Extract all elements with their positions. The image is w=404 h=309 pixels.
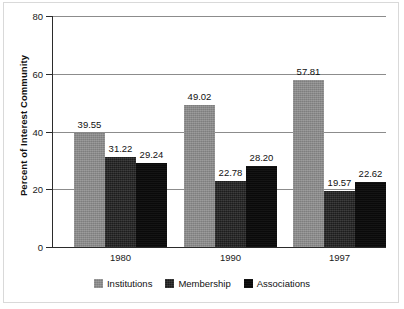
bar-group: 57.8119.5722.62 — [293, 16, 386, 247]
bar-group: 39.5531.2229.24 — [74, 16, 167, 247]
bar-chart-figure: Percent of Interest Community 020406080 … — [0, 0, 404, 309]
legend-swatch-icon — [165, 279, 174, 288]
y-tick-label: 20 — [32, 184, 43, 195]
legend-label: Associations — [257, 278, 310, 289]
bar-group: 49.0222.7828.20 — [184, 16, 277, 247]
legend-item-institutions[interactable]: Institutions — [94, 278, 152, 289]
legend-swatch-icon — [244, 279, 253, 288]
bar-institutions-1990[interactable]: 49.02 — [184, 105, 215, 247]
y-axis-line — [52, 16, 53, 248]
bar-membership-1980[interactable]: 31.22 — [105, 157, 136, 247]
chart-legend: InstitutionsMembershipAssociations — [0, 278, 404, 289]
bar-membership-1990[interactable]: 22.78 — [215, 181, 246, 247]
bar-institutions-1997[interactable]: 57.81 — [293, 80, 324, 247]
bar-value-label: 57.81 — [297, 66, 321, 77]
bar-value-label: 19.57 — [328, 177, 352, 188]
y-axis-title: Percent of Interest Community — [18, 11, 29, 241]
x-tick-label-1990: 1990 — [220, 252, 241, 263]
bar-associations-1980[interactable]: 29.24 — [136, 163, 167, 247]
bar-value-label: 22.62 — [359, 168, 383, 179]
x-tick-label-1980: 1980 — [110, 252, 131, 263]
legend-label: Membership — [178, 278, 230, 289]
bar-associations-1990[interactable]: 28.20 — [246, 166, 277, 247]
bar-value-label: 22.78 — [219, 167, 243, 178]
x-tick-label-1997: 1997 — [329, 252, 350, 263]
y-tick-label: 80 — [32, 11, 43, 22]
y-tick-label: 0 — [38, 242, 43, 253]
bar-value-label: 49.02 — [188, 91, 212, 102]
bar-value-label: 39.55 — [78, 119, 102, 130]
bar-value-label: 28.20 — [250, 152, 274, 163]
legend-item-membership[interactable]: Membership — [165, 278, 230, 289]
bar-associations-1997[interactable]: 22.62 — [355, 182, 386, 247]
legend-label: Institutions — [107, 278, 152, 289]
bar-value-label: 31.22 — [109, 143, 133, 154]
y-tick-label: 60 — [32, 68, 43, 79]
bar-value-label: 29.24 — [140, 149, 164, 160]
bar-institutions-1980[interactable]: 39.55 — [74, 133, 105, 247]
legend-item-associations[interactable]: Associations — [244, 278, 310, 289]
y-tick-label: 40 — [32, 126, 43, 137]
x-axis-line — [52, 247, 386, 248]
legend-swatch-icon — [94, 279, 103, 288]
bar-membership-1997[interactable]: 19.57 — [324, 191, 355, 248]
plot-area: 020406080 39.5531.2229.2449.0222.7828.20… — [52, 16, 386, 248]
